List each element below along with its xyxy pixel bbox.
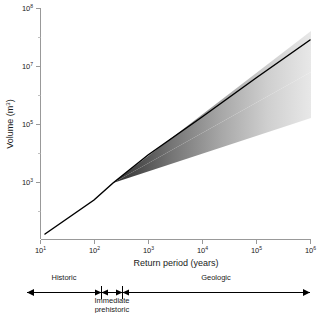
era-label-geologic: Geologic [201, 273, 231, 282]
era-label-immediate-prehistoric-line1: Immediate [94, 296, 129, 305]
x-axis-title: Return period (years) [133, 258, 218, 268]
era-label-immediate-prehistoric-line2: prehistoric [95, 305, 130, 313]
chart-figure: 108 107 105 103 101 102 103 104 105 106 … [0, 0, 323, 313]
era-label-historic: Historic [51, 273, 76, 282]
chart-canvas: 108 107 105 103 101 102 103 104 105 106 … [0, 0, 323, 313]
y-axis-title: Volume (m3) [5, 99, 15, 148]
